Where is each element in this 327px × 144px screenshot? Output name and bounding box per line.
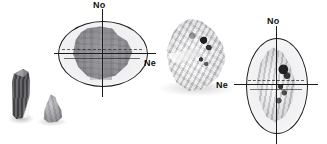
optic-axis-no-line xyxy=(276,26,277,144)
crystal-indicatrix-vertical: No Ne xyxy=(218,18,326,140)
crystal-fragment-rounded xyxy=(41,94,63,123)
optic-axis-ne-line xyxy=(54,53,156,54)
axis-label-ne: Ne xyxy=(216,80,228,90)
optic-axis-ne-line xyxy=(234,84,318,85)
figure-panel: No Ne No Ne xyxy=(0,0,327,144)
axis-label-no: No xyxy=(267,16,279,26)
crystal-indicatrix-horizontal: No Ne xyxy=(52,8,157,96)
axis-label-no: No xyxy=(93,0,105,10)
crystal-inner-zone xyxy=(90,28,112,80)
crystal-body xyxy=(11,69,31,119)
crystal-fragment-prismatic xyxy=(11,69,31,119)
crystal-body xyxy=(41,94,63,123)
axis-label-ne: Ne xyxy=(144,58,156,68)
